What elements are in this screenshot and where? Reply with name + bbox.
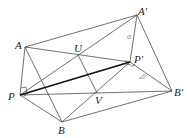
angle-label-alpha: α	[127, 33, 131, 41]
point-label-P-prime: P′	[134, 54, 143, 65]
edge-B-B'	[62, 91, 172, 122]
geometry-diagram: A A′ U P′ P V B′ B α β	[0, 0, 187, 138]
bold-edge-P-P'	[20, 62, 130, 95]
edge-B-P'	[62, 62, 130, 122]
point-label-P: P	[8, 91, 15, 102]
point-label-U: U	[74, 43, 82, 54]
point-label-A: A	[15, 40, 22, 51]
point-label-V: V	[95, 95, 102, 106]
point-label-B-prime: B′	[174, 87, 183, 98]
edge-P-A'	[20, 15, 137, 95]
point-label-B: B	[58, 125, 65, 136]
point-label-A-prime: A′	[138, 6, 147, 17]
diagram-lines	[0, 0, 187, 138]
